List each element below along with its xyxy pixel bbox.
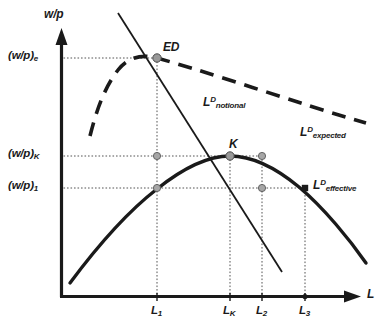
y-tick-base-wpe: (w/p) xyxy=(8,49,34,61)
y-axis-label: w/p xyxy=(44,8,63,20)
x-axis-label: L xyxy=(367,288,374,300)
marker-L3-wp1 xyxy=(302,185,308,191)
x-tick-label-LK: LK xyxy=(223,305,235,318)
y-tick-label-wp1: (w/p)1 xyxy=(8,180,38,193)
x-tick-sub-L2: 2 xyxy=(263,309,267,318)
curve-LD-notional xyxy=(118,13,282,272)
labour-demand-diagram: w/p L (w/p)e (w/p)K (w/p)1 L1 LK L2 L3 E… xyxy=(0,0,385,330)
x-tick-base-L3: L xyxy=(299,304,306,316)
point-label-ED: ED xyxy=(163,41,179,53)
diagram-canvas xyxy=(0,0,385,330)
x-tick-sub-L1: 1 xyxy=(158,309,162,318)
x-tick-base-LK: L xyxy=(223,304,230,316)
x-axis-arrow xyxy=(344,291,361,303)
y-axis-arrow xyxy=(56,28,68,45)
y-tick-sub-wpe: e xyxy=(34,54,38,63)
x-tick-label-L1: L1 xyxy=(151,305,162,318)
x-tick-sub-L3: 3 xyxy=(306,309,310,318)
y-tick-sub-wpK: K xyxy=(34,152,40,161)
y-tick-base-wp1: (w/p) xyxy=(8,179,34,191)
marker-L2-wpK xyxy=(258,152,265,159)
curve-label-sub-expected: expected xyxy=(313,131,346,140)
curve-label-LD-effective: LDeffective xyxy=(313,179,356,193)
marker-L2-wp1 xyxy=(258,184,265,191)
axes xyxy=(56,28,362,303)
marker-L1-wp1 xyxy=(153,184,160,191)
curve-LD-effective xyxy=(70,156,366,283)
curve-label-LD-notional: LDnotional xyxy=(203,96,245,110)
x-tick-base-L2: L xyxy=(256,304,263,316)
curve-label-LD-expected: LDexpected xyxy=(300,126,346,140)
x-tick-sub-LK: K xyxy=(230,309,236,318)
x-axis-dot-L3 xyxy=(302,294,307,299)
y-tick-sub-wp1: 1 xyxy=(34,184,38,193)
point-label-K: K xyxy=(229,138,237,150)
curve-label-sub-effective: effective xyxy=(326,184,357,193)
marker-L1-wpK xyxy=(153,152,160,159)
marker-K xyxy=(226,152,234,160)
y-tick-base-wpK: (w/p) xyxy=(8,147,34,159)
marker-ED xyxy=(153,54,161,62)
curve-label-sub-notional: notional xyxy=(216,101,246,110)
y-tick-label-wpe: (w/p)e xyxy=(8,50,38,63)
x-tick-label-L2: L2 xyxy=(256,305,267,318)
x-tick-label-L3: L3 xyxy=(299,305,310,318)
x-tick-base-L1: L xyxy=(151,304,158,316)
y-tick-label-wpK: (w/p)K xyxy=(8,148,39,161)
